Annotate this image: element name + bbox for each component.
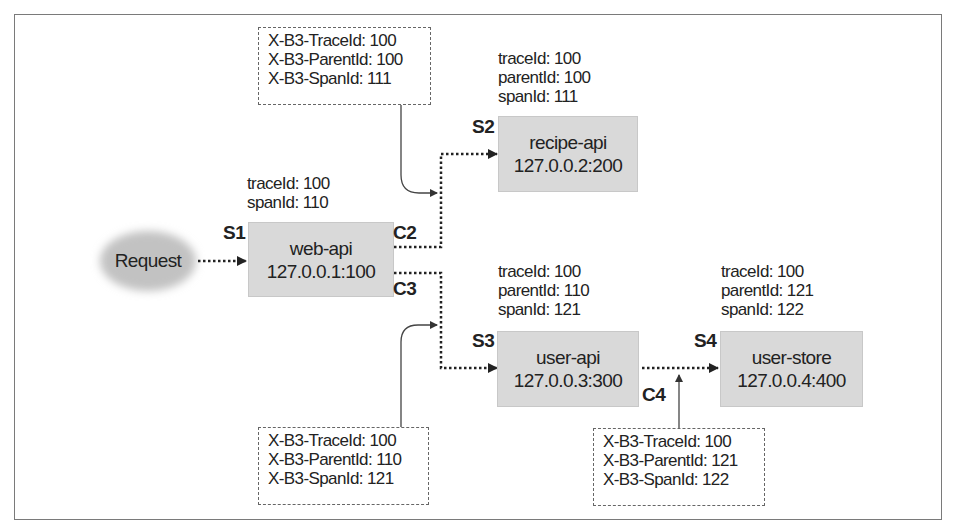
- node-name: recipe-api: [529, 131, 606, 154]
- node-name: user-api: [536, 346, 600, 369]
- node-name: user-store: [752, 346, 832, 369]
- header-parent-id: X-B3-ParentId: 121: [603, 451, 764, 470]
- b3-headers-c4: X-B3-TraceId: 100 X-B3-ParentId: 121 X-B…: [593, 428, 765, 506]
- header-span-id: X-B3-SpanId: 111: [268, 69, 430, 88]
- user-store-trace-id: traceId: 100: [721, 262, 813, 281]
- header-trace-id: X-B3-TraceId: 100: [268, 431, 428, 450]
- user-store-span-id: spanId: 122: [721, 300, 813, 319]
- header-trace-id: X-B3-TraceId: 100: [603, 432, 764, 451]
- request-label: Request: [115, 250, 182, 272]
- span-label-s2: S2: [472, 116, 494, 138]
- user-store-ids: traceId: 100 parentId: 121 spanId: 122: [721, 262, 813, 319]
- recipe-api-span-id: spanId: 111: [498, 87, 590, 106]
- recipe-api-trace-id: traceId: 100: [498, 49, 590, 68]
- header-parent-id: X-B3-ParentId: 110: [268, 450, 428, 469]
- span-label-s1: S1: [223, 222, 245, 244]
- header-span-id: X-B3-SpanId: 121: [268, 469, 428, 488]
- node-address: 127.0.0.4:400: [737, 369, 845, 392]
- user-api-trace-id: traceId: 100: [498, 262, 589, 281]
- user-api-parent-id: parentId: 110: [498, 281, 589, 300]
- user-api-span-id: spanId: 121: [498, 300, 589, 319]
- user-api-ids: traceId: 100 parentId: 110 spanId: 121: [498, 262, 589, 319]
- node-address: 127.0.0.1:100: [267, 260, 375, 283]
- node-user-store: user-store 127.0.0.4:400: [720, 331, 863, 407]
- node-address: 127.0.0.2:200: [514, 154, 622, 177]
- b3-headers-c3: X-B3-TraceId: 100 X-B3-ParentId: 110 X-B…: [258, 427, 429, 505]
- node-name: web-api: [290, 237, 352, 260]
- client-label-c4: C4: [642, 384, 665, 406]
- header-parent-id: X-B3-ParentId: 100: [268, 50, 430, 69]
- web-api-span-id: spanId: 110: [247, 193, 330, 212]
- span-label-s3: S3: [472, 330, 494, 352]
- web-api-trace-id: traceId: 100: [247, 174, 330, 193]
- client-label-c2: C2: [393, 222, 416, 244]
- node-user-api: user-api 127.0.0.3:300: [497, 331, 639, 407]
- client-label-c3: C3: [393, 278, 416, 300]
- node-address: 127.0.0.3:300: [514, 369, 622, 392]
- header-trace-id: X-B3-TraceId: 100: [268, 31, 430, 50]
- b3-headers-c2: X-B3-TraceId: 100 X-B3-ParentId: 100 X-B…: [258, 27, 431, 105]
- web-api-ids: traceId: 100 spanId: 110: [247, 174, 330, 212]
- node-web-api: web-api 127.0.0.1:100: [248, 222, 394, 297]
- user-store-parent-id: parentId: 121: [721, 281, 813, 300]
- node-recipe-api: recipe-api 127.0.0.2:200: [498, 116, 638, 192]
- request-cloud: Request: [100, 238, 196, 284]
- span-label-s4: S4: [694, 330, 716, 352]
- recipe-api-ids: traceId: 100 parentId: 100 spanId: 111: [498, 49, 590, 106]
- header-span-id: X-B3-SpanId: 122: [603, 470, 764, 489]
- recipe-api-parent-id: parentId: 100: [498, 68, 590, 87]
